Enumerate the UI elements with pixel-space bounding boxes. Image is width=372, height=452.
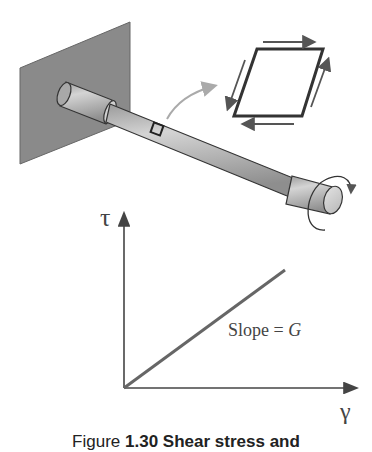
rod [54,81,345,216]
slope-label-prefix: Slope = [228,320,288,340]
figure-caption: Figure 1.30 Shear stress and [0,432,372,452]
slope-label: Slope = G [228,320,301,340]
caption-text: Shear stress and [163,432,300,451]
caption-lead: Figure [72,432,120,451]
pointer-arrow [167,86,214,119]
stress-strain-graph: τ γ Slope = G [100,203,356,424]
caption-number: 1.30 [125,432,158,451]
y-axis-label: τ [100,203,110,232]
shear-arrow-left [228,60,245,108]
slope-label-symbol: G [288,320,301,340]
sheared-element [228,42,328,124]
x-axis-label: γ [339,398,351,424]
